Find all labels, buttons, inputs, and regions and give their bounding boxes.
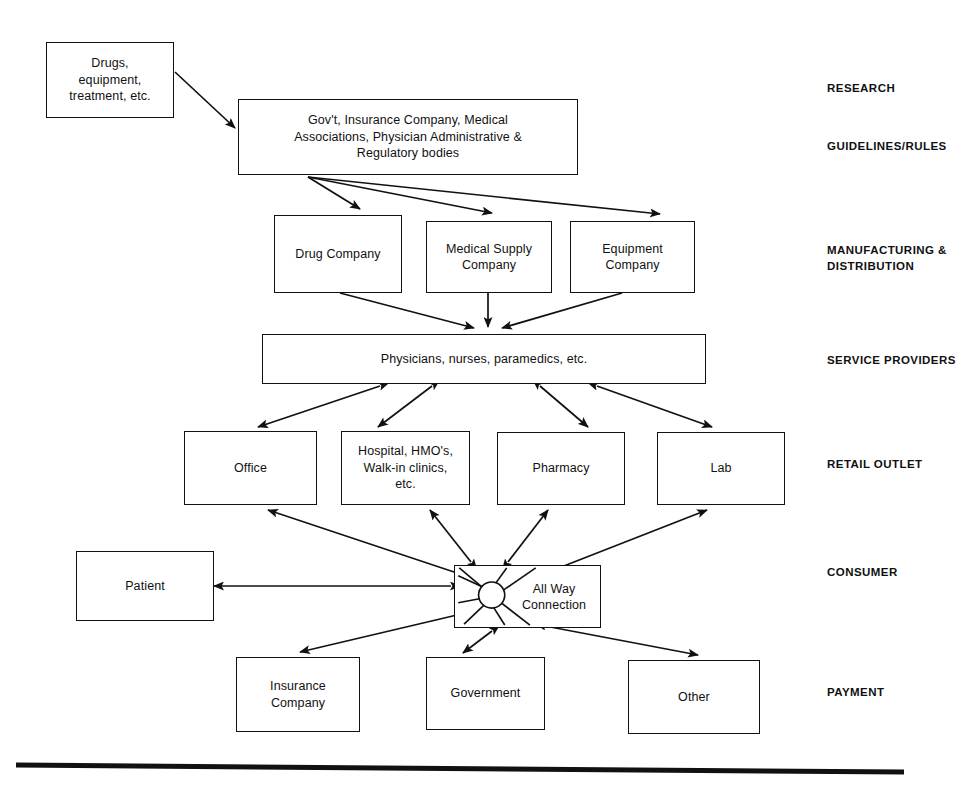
node-government[interactable]: Government: [426, 657, 545, 730]
connector-drug-company-to-service-providers: [340, 293, 474, 328]
node-patient-label: Patient: [125, 578, 165, 595]
node-service-providers[interactable]: Physicians, nurses, paramedics, etc.: [262, 334, 706, 384]
node-drug-company[interactable]: Drug Company: [274, 215, 402, 293]
node-office[interactable]: Office: [184, 431, 317, 505]
node-medical-supply[interactable]: Medical Supply Company: [426, 221, 552, 293]
stage-label-manufacturing: MANUFACTURING & DISTRIBUTION: [827, 243, 947, 274]
stage-label-service-providers: SERVICE PROVIDERS: [827, 353, 956, 369]
connector-hub-to-office: [268, 510, 457, 573]
node-all-way-connection[interactable]: All Way Connection: [454, 565, 601, 628]
node-guidelines[interactable]: Gov't, Insurance Company, Medical Associ…: [238, 99, 578, 175]
stage-label-guidelines: GUIDELINES/RULES: [827, 139, 947, 155]
connector-service-providers-to-hospital: [378, 386, 432, 427]
node-equipment-company-label: Equipment Company: [602, 241, 663, 274]
node-pharmacy-label: Pharmacy: [532, 460, 589, 477]
connector-hub-to-other: [545, 626, 698, 655]
node-other[interactable]: Other: [628, 660, 760, 734]
node-guidelines-label: Gov't, Insurance Company, Medical Associ…: [294, 112, 522, 162]
connector-hub-to-hospital: [430, 510, 471, 562]
connector-research-to-guidelines: [175, 72, 235, 128]
node-insurance-company-label: Insurance Company: [270, 678, 326, 711]
connector-service-providers-to-pharmacy: [540, 386, 588, 427]
node-government-label: Government: [451, 685, 521, 702]
node-office-label: Office: [234, 460, 267, 477]
stage-label-research: RESEARCH: [827, 81, 895, 97]
connector-equipment-company-to-service-providers: [502, 293, 622, 328]
connector-service-providers-to-lab: [597, 386, 712, 427]
node-all-way-connection-label: All Way Connection: [516, 580, 592, 613]
bottom-divider-rule: [16, 765, 904, 772]
connector-guidelines-to-medical-supply: [308, 177, 492, 213]
node-lab[interactable]: Lab: [657, 432, 785, 505]
connector-hub-to-insurance-company: [300, 615, 457, 652]
node-equipment-company[interactable]: Equipment Company: [570, 221, 695, 293]
node-pharmacy[interactable]: Pharmacy: [497, 432, 625, 505]
stage-label-consumer: CONSUMER: [827, 565, 898, 581]
node-patient[interactable]: Patient: [76, 551, 214, 621]
node-research[interactable]: Drugs, equipment, treatment, etc.: [46, 42, 174, 118]
connector-hub-to-government: [463, 631, 492, 653]
connector-hub-to-pharmacy: [508, 510, 548, 562]
connector-guidelines-to-equipment-company: [308, 177, 660, 214]
node-other-label: Other: [678, 689, 710, 706]
node-service-providers-label: Physicians, nurses, paramedics, etc.: [381, 351, 587, 368]
diagram-canvas: Drugs, equipment, treatment, etc. Gov't,…: [0, 0, 968, 790]
node-lab-label: Lab: [710, 460, 731, 477]
node-hospital-label: Hospital, HMO's, Walk-in clinics, etc.: [358, 443, 453, 493]
stage-label-payment: PAYMENT: [827, 685, 884, 701]
node-drug-company-label: Drug Company: [295, 246, 380, 263]
node-insurance-company[interactable]: Insurance Company: [236, 657, 360, 732]
stage-label-retail-outlet: RETAIL OUTLET: [827, 457, 923, 473]
node-hospital[interactable]: Hospital, HMO's, Walk-in clinics, etc.: [341, 431, 470, 505]
node-medical-supply-label: Medical Supply Company: [446, 241, 532, 274]
node-research-label: Drugs, equipment, treatment, etc.: [69, 55, 150, 105]
connector-hub-to-lab: [551, 510, 707, 571]
connector-service-providers-to-office: [258, 386, 380, 427]
